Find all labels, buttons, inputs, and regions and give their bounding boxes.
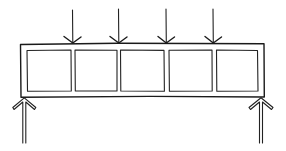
load-arrows: [64, 9, 222, 43]
support-arrow-up-icon: [249, 98, 273, 143]
load-arrow-down-icon: [158, 9, 175, 43]
cells: [27, 50, 258, 91]
cell-4: [169, 50, 212, 91]
beam-diagram: Hand-drawn sketch of a beam/frame with f…: [0, 0, 286, 151]
beam-outline: [21, 43, 265, 97]
cell-3: [121, 50, 165, 91]
load-arrow-down-icon: [205, 9, 222, 43]
support-arrows: [13, 98, 273, 143]
load-arrow-down-icon: [64, 10, 81, 43]
cell-2: [75, 50, 117, 91]
cell-1: [27, 50, 71, 91]
load-arrow-down-icon: [110, 9, 127, 43]
support-arrow-up-icon: [13, 98, 36, 143]
diagram-canvas: [0, 0, 286, 151]
cell-5: [217, 50, 259, 91]
